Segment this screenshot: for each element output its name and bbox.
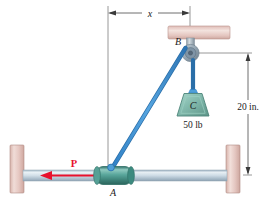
force-P-label: P <box>71 158 78 169</box>
collar-A-cable-eye <box>108 164 115 171</box>
arrowhead-right-icon <box>182 11 190 16</box>
collar-A <box>94 164 135 184</box>
block-C-label: C <box>190 100 197 111</box>
right-wall-support <box>226 145 240 193</box>
weight-label: 50 lb <box>183 120 203 130</box>
collar-A-left-cap <box>94 167 101 185</box>
collar-A-right-cap <box>128 167 135 185</box>
arrowhead-down-icon <box>246 167 251 175</box>
block-C-hook <box>189 90 198 94</box>
statics-diagram: x 20 in. <box>0 0 270 203</box>
collar-A-label: A <box>109 187 117 198</box>
left-wall-body <box>10 145 24 193</box>
figure-canvas: x 20 in. <box>0 0 270 203</box>
arrowhead-left-icon <box>108 11 116 16</box>
left-wall-support <box>10 145 24 193</box>
right-wall-body <box>226 145 240 193</box>
pulley-axle <box>188 51 192 55</box>
pulley-B-label: B <box>175 36 181 47</box>
rod-right-segment <box>127 170 227 181</box>
dimension-20in-label: 20 in. <box>237 102 259 112</box>
cable-A-to-B <box>111 48 186 170</box>
block-C: C <box>177 90 209 117</box>
dimension-x-label: x <box>147 8 153 19</box>
arrowhead-up-icon <box>246 53 251 61</box>
